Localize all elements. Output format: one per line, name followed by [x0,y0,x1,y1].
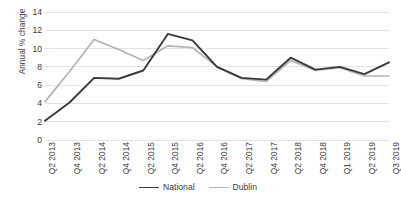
chart-legend: NationalDublin [0,183,396,192]
x-axis-tick: Q4 2015 [171,142,179,174]
x-axis-tick: Q2 2019 [368,142,376,174]
legend-line-swatch [139,187,159,188]
x-axis-tick: Q4 2018 [319,142,327,174]
y-axis-tick: 10 [20,44,42,53]
x-axis-tick: Q2 2016 [196,142,204,174]
x-axis-tick: Q2 2017 [245,142,253,174]
x-axis-tick: Q2 2013 [48,142,56,174]
legend-label: Dublin [233,183,257,192]
plot-area [45,12,389,140]
legend-item-national[interactable]: National [139,183,195,192]
x-axis-tick: Q3 2019 [392,142,400,174]
legend-label: National [163,183,195,192]
y-axis-tick: 8 [20,63,42,72]
x-axis-tick: Q4 2014 [122,142,130,174]
x-axis-tick: Q2 2018 [294,142,302,174]
x-axis-tick: Q4 2016 [220,142,228,174]
series-lines [45,34,389,121]
x-axis-tick: Q2 2015 [147,142,155,174]
x-axis-tick: Q2 2014 [98,142,106,174]
y-axis-tick: 2 [20,117,42,126]
x-axis-tick: Q1 2019 [343,142,351,174]
y-axis-tick: 6 [20,81,42,90]
plot-svg [45,12,389,140]
legend-item-dublin[interactable]: Dublin [209,183,257,192]
y-axis-tick: 0 [20,136,42,145]
y-axis-tick: 12 [20,26,42,35]
x-axis-tick-labels: Q2 2013Q4 2013Q2 2014Q4 2014Q2 2015Q4 20… [45,140,389,182]
y-axis-tick-labels: 02468101214 [20,0,42,201]
gridlines [45,12,389,140]
y-axis-tick: 4 [20,99,42,108]
x-axis-tick: Q4 2017 [270,142,278,174]
legend-line-swatch [209,187,229,188]
series-line-national [45,34,389,121]
y-axis-tick: 14 [20,8,42,17]
x-axis-tick: Q4 2013 [73,142,81,174]
